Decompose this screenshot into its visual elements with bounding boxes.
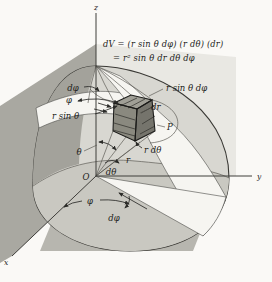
formula-line-1: dV = (r sin θ dφ) (r dθ) (dr) bbox=[103, 39, 223, 49]
y-axis-label: y bbox=[256, 172, 262, 181]
r-sin-theta-d-phi-label: r sin θ dφ bbox=[166, 83, 207, 93]
volume-element bbox=[113, 95, 155, 141]
r-sin-theta-label: r sin θ bbox=[52, 111, 79, 121]
d-phi-top-label: dφ bbox=[67, 83, 78, 93]
d-phi-bottom-label: dφ bbox=[108, 213, 119, 223]
dr-label: dr bbox=[151, 102, 161, 112]
phi-top-label: φ bbox=[66, 95, 72, 105]
theta-label: θ bbox=[76, 147, 81, 157]
d-theta-label: dθ bbox=[106, 167, 117, 177]
formula-line-2: = r² sin θ dr dθ dφ bbox=[113, 53, 195, 63]
x-axis-label: x bbox=[4, 258, 9, 267]
phi-bottom-label: φ bbox=[87, 196, 93, 206]
point-p-label: P bbox=[166, 122, 173, 132]
figure-canvas: z y x O dφ φ r bbox=[0, 0, 272, 282]
r-d-theta-label: r dθ bbox=[144, 145, 161, 155]
origin-label: O bbox=[83, 172, 90, 182]
spherical-coordinates-figure: z y x O dφ φ r bbox=[0, 0, 272, 282]
z-axis-label: z bbox=[93, 3, 98, 12]
